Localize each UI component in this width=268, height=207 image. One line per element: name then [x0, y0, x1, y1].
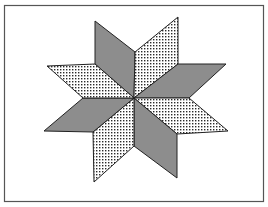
star-diagram	[0, 0, 268, 207]
